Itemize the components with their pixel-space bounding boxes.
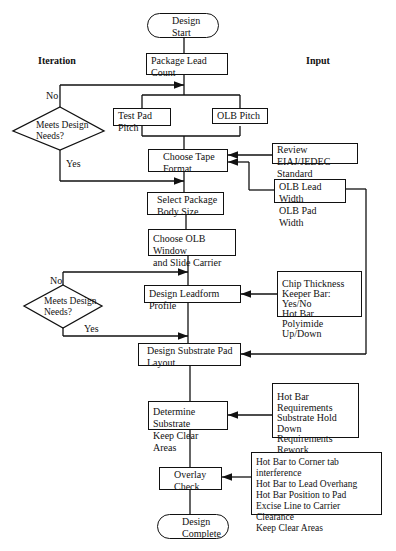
choose-tape-format-box: Choose Tape Format [148, 149, 228, 172]
package-lead-count-box: Package Lead Count [146, 53, 228, 75]
keep-clear-inputs-box: Hot Bar Requirements Substrate Hold Down… [272, 383, 359, 438]
test-pad-pitch-box: Test Pad Pitch [113, 108, 171, 126]
olb-widths-input-box: OLB Lead Width OLB Pad Width [274, 179, 346, 203]
start-terminal: Design Start [147, 13, 219, 38]
decision-2-text: Meets Design Needs? [44, 296, 97, 318]
leadform-inputs-box: Chip Thickness Keeper Bar: Yes/No Hot Ba… [277, 271, 362, 317]
decision-1-text: Meets Design Needs? [36, 120, 89, 142]
decision-1-yes-label: Yes [66, 158, 81, 170]
overlay-inputs-box: Hot Bar to Corner tab interference Hot B… [251, 452, 382, 515]
decision-2-no-label: No [50, 275, 62, 287]
select-package-body-size-box: Select Package Body Size [147, 192, 224, 215]
complete-terminal: Design Complete [157, 514, 229, 539]
overlay-check-box: Overlay Check [159, 467, 222, 490]
iteration-header: Iteration [38, 55, 76, 66]
decision-1-no-label: No [46, 90, 58, 102]
choose-olb-window-box: Choose OLB Window and Slide Carrier [148, 229, 236, 256]
input-header: Input [306, 55, 330, 66]
determine-keep-clear-box: Determine Substrate Keep Clear Areas [148, 401, 228, 430]
design-substrate-pad-layout-box: Design Substrate Pad Layout [138, 343, 241, 366]
olb-pitch-box: OLB Pitch [212, 108, 268, 124]
review-standard-input-box: Review EIAJ/JEDEC Standard [272, 143, 358, 164]
design-leadform-profile-box: Design Leadform Profile [144, 285, 241, 303]
decision-2-yes-label: Yes [84, 323, 99, 335]
